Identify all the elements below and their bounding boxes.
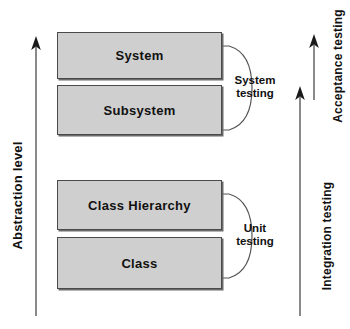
brace-label-unit-testing-line2: testing — [229, 235, 281, 248]
abstraction-level-axis-arrow — [31, 36, 41, 316]
acceptance-testing-axis-arrow — [309, 34, 319, 100]
box-class: Class — [57, 237, 222, 289]
box-label-class-hierarchy: Class Hierarchy — [88, 198, 191, 213]
brace-label-unit-testing: Unit testing — [229, 222, 281, 248]
abstraction-testing-diagram: System Subsystem Class Hierarchy Class S… — [0, 0, 350, 329]
box-label-system: System — [115, 48, 163, 63]
box-system: System — [57, 32, 222, 79]
brace-label-system-testing-line1: System — [229, 74, 281, 87]
box-label-class: Class — [121, 256, 157, 271]
box-class-hierarchy: Class Hierarchy — [57, 180, 222, 230]
axis-label-acceptance-testing: Acceptance testing — [331, 1, 345, 131]
box-label-subsystem: Subsystem — [103, 103, 175, 118]
box-subsystem: Subsystem — [57, 85, 222, 135]
brace-label-system-testing-line2: testing — [229, 87, 281, 100]
integration-testing-axis-arrow — [295, 86, 305, 316]
brace-label-system-testing: System testing — [229, 74, 281, 100]
brace-label-unit-testing-line1: Unit — [229, 222, 281, 235]
axis-label-abstraction-level: Abstraction level — [10, 136, 25, 256]
axis-label-integration-testing: Integration testing — [320, 171, 334, 301]
